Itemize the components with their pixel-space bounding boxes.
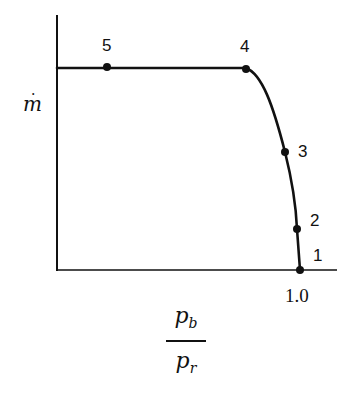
- y-axis-label: · m: [23, 92, 42, 116]
- point-label-4: 4: [240, 37, 249, 57]
- x-label-numerator: pb: [160, 303, 212, 336]
- y-axis-label-dot: ·: [31, 86, 35, 102]
- x-tick-label: 1.0: [285, 285, 309, 307]
- data-point-3: [281, 148, 289, 156]
- x-axis-label: pb pr: [160, 303, 212, 381]
- data-point-5: [103, 63, 111, 71]
- x-label-denominator: pr: [160, 348, 212, 381]
- data-point-4: [242, 65, 250, 73]
- data-point-1: [296, 266, 304, 274]
- data-point-2: [293, 225, 301, 233]
- point-label-5: 5: [102, 36, 111, 56]
- point-label-3: 3: [298, 142, 307, 162]
- point-label-2: 2: [310, 211, 319, 231]
- point-label-1: 1: [313, 246, 322, 266]
- fraction-bar: [166, 340, 206, 342]
- flow-curve: [57, 68, 300, 270]
